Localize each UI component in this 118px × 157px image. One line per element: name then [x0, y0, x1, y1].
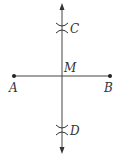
perpendicular-bisector-diagram: C M A B D [0, 0, 118, 157]
label-m: M [63, 61, 77, 75]
label-b: B [103, 81, 113, 95]
arrow-up-icon [60, 3, 65, 10]
arrow-down-icon [60, 147, 65, 154]
point-b-dot [108, 74, 112, 78]
label-c: C [70, 22, 79, 36]
label-a: A [8, 81, 18, 95]
point-a-dot [12, 74, 16, 78]
label-d: D [69, 124, 80, 138]
